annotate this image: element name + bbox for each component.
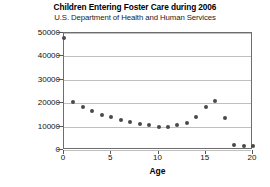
data-point [109,115,113,119]
gridline [64,103,251,104]
data-point [100,113,104,117]
data-point [62,36,66,40]
data-point [175,123,179,127]
data-point [157,125,161,129]
data-point [185,121,189,125]
x-axis-tick-label: 0 [61,153,65,162]
gridline [64,33,251,34]
data-point [166,125,170,129]
data-point [128,120,132,124]
gridline [64,56,251,57]
data-point [223,116,227,120]
data-point [242,144,246,148]
gridline [64,80,251,81]
data-point [194,115,198,119]
data-point [71,100,75,104]
data-point [90,109,94,113]
x-axis-tick [252,150,253,154]
chart-container: Children Entering Foster Care during 200… [0,0,270,187]
data-point [232,143,236,147]
x-axis-tick-label: 10 [153,153,162,162]
x-axis-tick-label: 20 [248,153,257,162]
x-axis-tick-label: 5 [108,153,112,162]
data-point [119,118,123,122]
chart-subtitle: U.S. Department of Health and Human Serv… [0,13,270,22]
data-point [138,122,142,126]
data-point [147,123,151,127]
plot-area [63,32,252,149]
chart-title: Children Entering Foster Care during 200… [0,2,270,12]
x-axis-labels: 05101520 [63,150,252,164]
data-point [81,105,85,109]
data-point [213,99,217,103]
x-axis-title: Age [63,166,252,176]
y-axis-labels: 01000020000300004000050000 [0,32,60,149]
x-axis-tick-label: 15 [200,153,209,162]
data-point [251,144,255,148]
gridline [64,150,251,151]
data-point [204,105,208,109]
